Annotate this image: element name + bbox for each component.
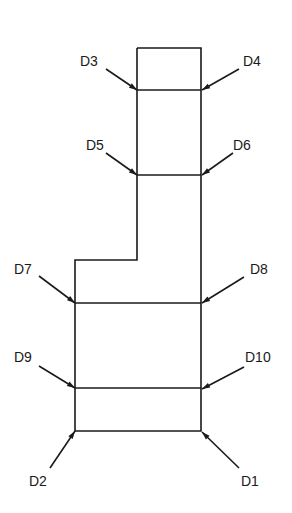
leader-arrow-d8 [202, 277, 244, 303]
leader-arrow-d3 [106, 69, 137, 90]
leader-arrow-d10 [202, 367, 244, 389]
point-label-d8: D8 [250, 261, 268, 277]
point-label-d2: D2 [29, 473, 47, 489]
leader-arrow-d9 [39, 366, 75, 388]
point-label-d3: D3 [80, 53, 98, 69]
point-label-d10: D10 [245, 349, 271, 365]
point-label-d7: D7 [14, 261, 32, 277]
point-label-d1: D1 [241, 473, 259, 489]
point-label-d5: D5 [86, 137, 104, 153]
leader-arrow-d7 [39, 276, 75, 303]
leader-arrow-d1 [202, 432, 239, 468]
leader-arrow-d5 [106, 153, 137, 175]
arrowhead-icon [68, 431, 75, 439]
leader-arrow-d2 [50, 431, 75, 468]
point-label-d4: D4 [243, 53, 261, 69]
division-lines [75, 90, 201, 388]
point-label-d6: D6 [233, 137, 251, 153]
leader-arrow-d4 [202, 69, 239, 90]
arrowhead-icon [67, 382, 75, 388]
leader-arrows [39, 69, 244, 468]
section-outline [75, 48, 201, 431]
point-labels: D1D2D3D4D5D6D7D8D9D10 [14, 53, 271, 489]
leader-arrow-d6 [202, 153, 233, 175]
diagram-canvas: D1D2D3D4D5D6D7D8D9D10 [0, 0, 292, 513]
arrowhead-icon [129, 83, 137, 90]
arrowhead-icon [202, 383, 210, 389]
arrowhead-icon [202, 84, 210, 90]
point-label-d9: D9 [14, 349, 32, 365]
arrowhead-icon [202, 297, 210, 303]
